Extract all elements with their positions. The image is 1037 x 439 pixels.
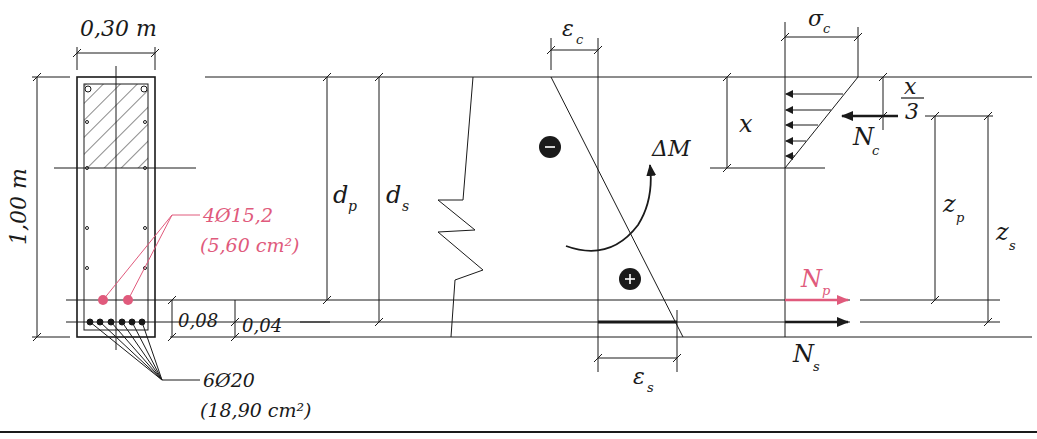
- section-height-label: 1,00 m: [6, 168, 31, 245]
- cross-section: [32, 47, 1032, 350]
- ns-label: N: [792, 340, 815, 368]
- np-subscript: p: [822, 283, 831, 298]
- nc-subscript: c: [872, 143, 880, 158]
- prestress-tendons: [98, 215, 200, 305]
- prestress-label: 4Ø15,2: [202, 204, 273, 226]
- dp-label: d: [333, 181, 348, 209]
- ds-label: d: [386, 181, 401, 209]
- eps-s-subscript: s: [647, 380, 654, 395]
- steel-label: 6Ø20: [203, 369, 255, 391]
- stress-diagram: [710, 22, 993, 337]
- delta-m-label: ΔM: [651, 136, 691, 161]
- ds-subscript: s: [402, 198, 409, 214]
- zs-subscript: s: [1009, 238, 1016, 253]
- eps-c-label: ε: [562, 16, 574, 41]
- dim-004-label: 0,04: [242, 315, 282, 336]
- np-label: N: [800, 265, 823, 293]
- x-over-3-denominator: 3: [905, 99, 919, 124]
- steel-area: (18,90 cm²): [200, 399, 312, 421]
- eps-c-subscript: c: [576, 32, 584, 47]
- eps-s-label: ε: [633, 364, 645, 389]
- x-over-3-numerator: x: [904, 74, 917, 99]
- dp-subscript: p: [348, 198, 357, 214]
- ns-subscript: s: [813, 359, 820, 374]
- section-width-label: 0,30 m: [80, 16, 157, 41]
- zs-label: z: [995, 218, 1009, 246]
- zp-subscript: p: [956, 210, 965, 225]
- beam-section-diagram: 0,30 m 1,00 m 4Ø15,2 (5,60 cm²) 6Ø20 (18…: [0, 0, 1037, 439]
- prestress-area: (5,60 cm²): [200, 234, 299, 256]
- zp-label: z: [942, 190, 956, 218]
- sigma-c-subscript: c: [823, 21, 831, 36]
- sigma-c-label: σ: [808, 6, 824, 31]
- dim-008-label: 0,08: [178, 310, 218, 331]
- x-label: x: [739, 110, 753, 138]
